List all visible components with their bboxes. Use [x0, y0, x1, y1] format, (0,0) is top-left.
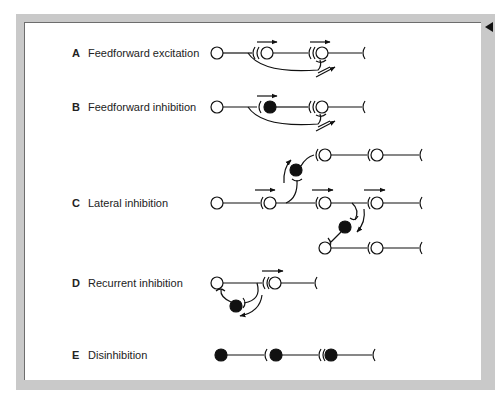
circuit-diagram [0, 0, 495, 400]
row-c-circuit [211, 149, 422, 254]
row-a-circuit [211, 42, 365, 77]
row-e-circuit [215, 349, 375, 361]
row-d-circuit [211, 271, 317, 316]
row-b-circuit [211, 96, 365, 131]
